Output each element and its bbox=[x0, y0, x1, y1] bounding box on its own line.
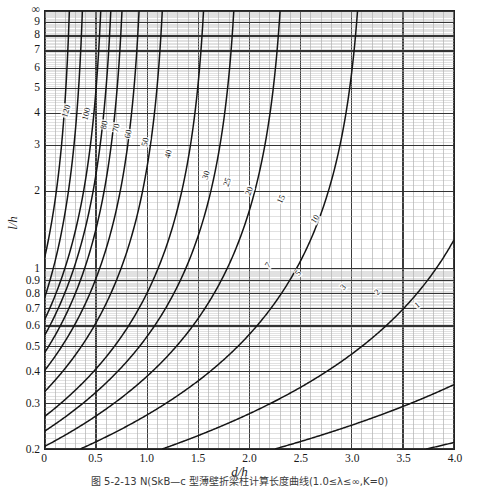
curve-label-60: 60 bbox=[123, 128, 133, 139]
y-tick-4: 4 bbox=[6, 107, 40, 119]
y-tick-∞: ∞ bbox=[6, 4, 40, 16]
curve-15 bbox=[81, 11, 358, 449]
curve-7 bbox=[276, 385, 454, 449]
y-axis-tick-labels: 0.20.30.40.50.60.70.80.9123456789∞ bbox=[0, 10, 40, 450]
plot-area: 1201008070605040302520151075321 bbox=[44, 10, 455, 450]
curve-25 bbox=[45, 11, 234, 431]
y-tick-0.3: 0.3 bbox=[6, 399, 40, 411]
y-tick-0.6: 0.6 bbox=[6, 321, 40, 333]
y-tick-3: 3 bbox=[6, 140, 40, 152]
figure-caption: 图 5-2-13 N(SkB—c 型薄壁折梁柱计算长度曲线(1.0≤λ≤∞,K=… bbox=[0, 476, 479, 487]
curve-120 bbox=[45, 11, 69, 256]
y-tick-8: 8 bbox=[6, 29, 40, 41]
curve-20 bbox=[45, 11, 280, 446]
curve-label-50: 50 bbox=[140, 136, 150, 147]
curve-30 bbox=[45, 11, 204, 416]
y-tick-5: 5 bbox=[6, 82, 40, 94]
y-tick-6: 6 bbox=[6, 62, 40, 74]
y-tick-1: 1 bbox=[6, 263, 40, 275]
curve-40 bbox=[45, 11, 162, 391]
y-tick-0.5: 0.5 bbox=[6, 341, 40, 353]
y-tick-7: 7 bbox=[6, 44, 40, 56]
y-tick-9: 9 bbox=[6, 16, 40, 28]
y-tick-0.7: 0.7 bbox=[6, 303, 40, 315]
y-tick-0.9: 0.9 bbox=[6, 275, 40, 287]
y-tick-0.2: 0.2 bbox=[6, 444, 40, 456]
curve-60 bbox=[45, 11, 122, 352]
y-axis-title: l/h bbox=[5, 216, 21, 230]
y-tick-0.8: 0.8 bbox=[6, 288, 40, 300]
curve-label-80: 80 bbox=[99, 120, 109, 131]
y-tick-0.4: 0.4 bbox=[6, 366, 40, 378]
y-tick-2: 2 bbox=[6, 185, 40, 197]
curve-10 bbox=[163, 240, 454, 449]
curve-label-40: 40 bbox=[163, 149, 174, 160]
curve-50 bbox=[45, 11, 139, 370]
curve-lines bbox=[45, 11, 454, 449]
curve-100 bbox=[45, 11, 82, 297]
curve-5 bbox=[427, 442, 454, 448]
